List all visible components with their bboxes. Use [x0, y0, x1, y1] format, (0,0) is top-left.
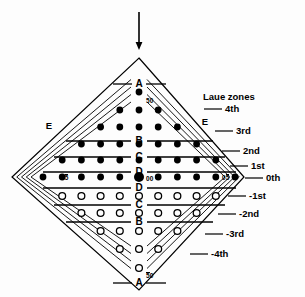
chevron-upper-left-15 [26, 95, 131, 178]
diffraction-spot-filled [155, 157, 162, 164]
diffraction-spot-filled [97, 124, 104, 131]
center-letter-C-2: C [135, 152, 142, 162]
spot-index-origin: 00 [146, 176, 153, 183]
chevron-lower-left-10 [22, 177, 132, 261]
diffraction-spot-filled [155, 174, 162, 181]
diffraction-spot-open [174, 228, 181, 235]
diffraction-spot-open [174, 193, 181, 200]
spot-index-bottom-open: 50 [146, 272, 153, 280]
diffraction-spot-open [155, 246, 162, 253]
diffraction-spot-filled [193, 174, 200, 181]
diffraction-spot-open [97, 210, 104, 217]
center-letter-C-5: C [135, 200, 142, 210]
center-letter-A-7: A [135, 278, 142, 288]
diffraction-spot-filled [155, 141, 162, 148]
diffraction-spot-filled [78, 174, 85, 181]
diffraction-spot-filled [136, 124, 143, 131]
diffraction-spot-open [116, 246, 123, 253]
spot-index-right-end-0th: 05 [222, 174, 229, 182]
diffraction-spot-filled [116, 141, 123, 148]
diffraction-spot-filled [59, 157, 66, 164]
diffraction-spot-filled [155, 124, 162, 131]
center-letter-D-3: D [135, 167, 142, 177]
diffraction-spot-filled [174, 124, 181, 131]
chevron-upper-left-10 [22, 87, 132, 177]
edge-letter-E-right: E [202, 117, 208, 127]
diffraction-spot-filled [116, 124, 123, 131]
diffraction-spot-filled [136, 107, 143, 114]
diffraction-spot-filled [97, 174, 104, 181]
zone-label-3rd: 3rd [236, 126, 251, 136]
diffraction-spot-open [155, 228, 162, 235]
diffraction-spot-open [78, 210, 85, 217]
diffraction-spot-open [59, 193, 66, 200]
diffraction-spot-open [174, 210, 181, 217]
diffraction-spot-open [136, 228, 143, 235]
chevron-upper-left-5 [17, 80, 131, 178]
diffraction-spot-open [193, 193, 200, 200]
diffraction-spot-filled [97, 157, 104, 164]
diffraction-spot-open [212, 193, 219, 200]
diffraction-spot-open [116, 228, 123, 235]
diffraction-spot-filled [155, 107, 162, 114]
diffraction-spot-filled [116, 157, 123, 164]
incident-beam-arrow [136, 12, 143, 50]
zone-label-4th: 4th [225, 104, 239, 114]
center-letter-D-4: D [135, 183, 142, 193]
zone-label-2nd: -2nd [239, 209, 259, 219]
diffraction-spot-open [97, 228, 104, 235]
diffraction-spot-open [116, 210, 123, 217]
zone-label-4th: -4th [211, 249, 228, 259]
diffraction-spot-open [136, 246, 143, 253]
chevron-upper-left-20 [31, 102, 131, 177]
spot-index-left-end-0th: 05 [61, 174, 68, 182]
diffraction-spot-filled [193, 157, 200, 164]
diffraction-spot-open [116, 193, 123, 200]
diffraction-spot-filled [174, 157, 181, 164]
diffraction-spot-filled [78, 157, 85, 164]
zone-label-2nd: 2nd [243, 146, 260, 156]
laue-zone-figure: 4th3rd2nd1st0th-1st-2nd-3rd-4thABCDDCBAE… [0, 0, 305, 297]
zone-label-0th: 0th [266, 173, 280, 183]
diffraction-spot-filled [193, 141, 200, 148]
diffraction-spot-filled [97, 141, 104, 148]
diffraction-spot-filled [174, 141, 181, 148]
diffraction-spot-filled [116, 107, 123, 114]
diffraction-spot-filled [136, 89, 143, 96]
center-letter-B-1: B [135, 136, 142, 146]
edge-letter-E-left: E [46, 121, 52, 131]
diffraction-spot-filled [116, 174, 123, 181]
center-letter-B-6: B [135, 217, 142, 227]
diffraction-spot-open [155, 210, 162, 217]
spot-index-top-filled: 50 [146, 98, 153, 105]
diffraction-spot-open [78, 193, 85, 200]
zone-label-1st: -1st [249, 191, 266, 201]
diffraction-spot-filled [40, 174, 47, 181]
chevron-lower-left-5 [17, 177, 131, 269]
diffraction-spot-open [97, 193, 104, 200]
laue-zones-title: Laue zones [203, 92, 255, 102]
diffraction-spot-filled [212, 174, 219, 181]
zone-label-1st: 1st [251, 161, 265, 171]
diffraction-spot-filled [78, 141, 85, 148]
diffraction-spot-open [193, 210, 200, 217]
diffraction-spot-filled [232, 174, 239, 181]
diffraction-spots-group [40, 89, 239, 272]
diffraction-spot-filled [174, 174, 181, 181]
diffraction-spot-open [155, 193, 162, 200]
diffraction-spot-filled [212, 157, 219, 164]
laue-zone-chevrons [17, 80, 240, 269]
zone-label-3rd: -3rd [226, 229, 244, 239]
arrow-head [136, 42, 143, 50]
diffraction-spot-open [136, 265, 143, 272]
center-letter-A-0: A [135, 79, 142, 89]
